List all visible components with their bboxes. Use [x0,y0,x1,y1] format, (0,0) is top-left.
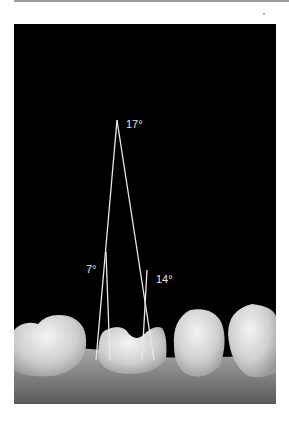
photo-illustration [14,24,276,404]
angle-lines [96,120,154,360]
tooth-center [98,327,167,374]
top-rule [14,0,289,2]
page-marker [263,13,265,15]
angle-label-right: 14° [156,274,173,285]
tooth-right-1 [174,309,225,376]
dental-photo: 17° 7° 14° [14,24,276,404]
angle-label-apex: 17° [126,119,143,130]
angle-label-left: 7° [86,264,97,275]
